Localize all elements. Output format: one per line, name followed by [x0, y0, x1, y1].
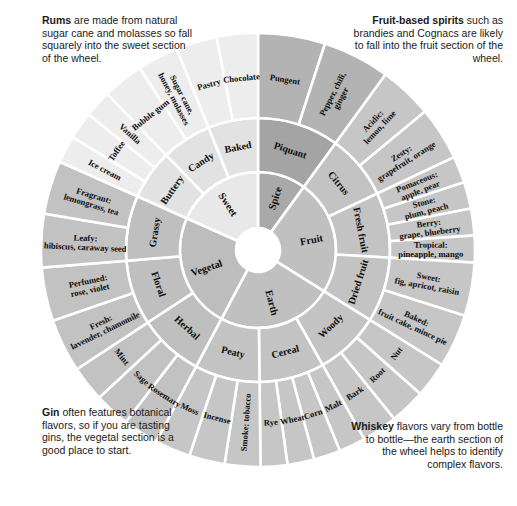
annotation-gin: Gin often features botanical flavors, so… [42, 406, 194, 456]
annotation-rums: Rums are made from natural sugar cane an… [42, 14, 194, 64]
annotation-rums-lead: Rums [42, 14, 71, 26]
annotation-gin-lead: Gin [42, 406, 60, 418]
svg-text:Rye: Rye [263, 417, 278, 428]
annotation-whiskey-lead: Whiskey [351, 420, 394, 432]
wheel-hub [236, 228, 280, 272]
ring3-label: Rye [263, 417, 278, 428]
annotation-whiskey: Whiskey flavors vary from bottle to bott… [351, 420, 503, 470]
annotation-fruit-based-spirits-lead: Fruit-based spirits [372, 14, 464, 26]
annotation-fruit-based-spirits: Fruit-based spirits such as brandies and… [351, 14, 503, 64]
annotation-gin-body: often features botanical flavors, so if … [42, 406, 174, 456]
